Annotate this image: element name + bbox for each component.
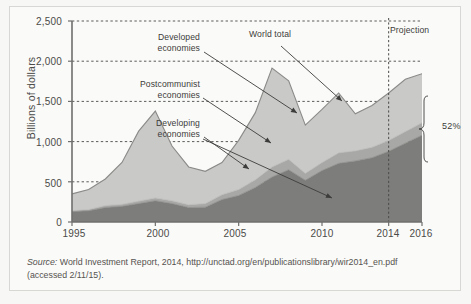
x-tick-label-1995: 1995 [50,228,98,239]
x-tick-label-2010: 2010 [298,228,346,239]
annotation-developing-line2: economies [128,129,200,140]
annotation-postcommunist-line2: economies [112,90,200,101]
source-prefix: Source: [27,257,57,267]
annotation-developed-economies: Developed economies [130,32,200,53]
y-tick-label-2500: 2,500 [16,16,62,27]
source-accessed: (accessed 2/11/15). [27,270,104,280]
annotation-world-total: World total [249,29,319,40]
annotation-developing-economies: Developing economies [128,118,200,139]
y-tick-label-500: 500 [16,178,62,189]
annotation-postcommunist-economies: Postcommunist economies [112,79,200,100]
y-tick-label-0: 0 [16,217,62,228]
x-tick-label-2005: 2005 [211,228,259,239]
y-tick-label-2000: 2,000 [16,56,62,67]
annotation-postcommunist-line1: Postcommunist [112,79,200,90]
annotation-developing-line1: Developing [128,118,200,129]
annotation-developed-line1: Developed [130,32,200,43]
percent-label: 52% [442,121,461,131]
x-tick-label-2000: 2000 [134,228,182,239]
annotation-developed-line2: economies [130,43,200,54]
projection-label: Projection [390,25,429,35]
source-note: Source: World Investment Report, 2014, h… [27,256,437,281]
x-tick-label-2016: 2016 [397,228,445,239]
annotation-world-total-line1: World total [249,29,319,40]
source-citation: World Investment Report, 2014, http://un… [57,257,397,267]
y-tick-label-1500: 1,500 [16,96,62,107]
figure-container: Billions of dollars 2,500 2,000 1,500 1,… [0,0,471,304]
y-tick-label-1000: 1,000 [16,137,62,148]
